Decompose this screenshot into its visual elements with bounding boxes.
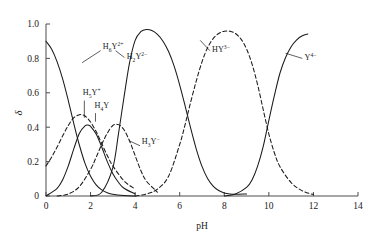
x-tick-label: 8 — [222, 201, 227, 211]
y-axis-title: δ — [12, 110, 24, 116]
curves-group — [46, 29, 313, 196]
series-label-HY3-: HY3− — [212, 44, 230, 54]
x-tick-label: 10 — [264, 201, 274, 211]
x-axis-tick-labels: 02468101214 — [44, 201, 363, 211]
x-tick-label: 14 — [353, 201, 363, 211]
leader-H3Y- — [129, 141, 140, 146]
series-label-H6Y2+: H6Y2+ — [103, 41, 124, 53]
y-tick-label: 0.2 — [27, 157, 39, 167]
series-label-H3Y-: H3Y− — [142, 136, 160, 148]
x-tick-label: 2 — [88, 201, 93, 211]
y-tick-label: 0.4 — [27, 123, 39, 133]
curve-Y4- — [224, 34, 308, 196]
y-tick-label: 0 — [34, 191, 39, 201]
series-label-H4Y: H4Y — [95, 101, 110, 112]
series-label-Y4-: Y4− — [305, 52, 317, 62]
y-tick-label: 1.0 — [27, 19, 39, 29]
leader-Y4- — [286, 53, 303, 58]
x-tick-label: 0 — [44, 201, 49, 211]
axes-group — [46, 24, 358, 196]
leader-H6Y2+ — [82, 51, 100, 63]
curve-H6Y2+ — [46, 41, 135, 196]
y-axis-ticks — [46, 24, 50, 196]
series-label-H5Y+: H5Y+ — [83, 87, 101, 99]
leader-lines-group — [82, 40, 302, 145]
y-axis-tick-labels: 00.20.40.60.81.0 — [27, 19, 39, 201]
leader-H2Y2- — [116, 51, 125, 58]
y-tick-label: 0.6 — [27, 88, 39, 98]
x-tick-label: 4 — [133, 201, 138, 211]
x-axis-title: pH — [196, 221, 208, 231]
y-tick-label: 0.8 — [27, 54, 39, 64]
curve-H4Y — [46, 125, 135, 196]
series-labels-group: H6Y2+H5Y+H4YH3Y−H2Y2−HY3−Y4− — [83, 41, 317, 148]
chart-figure: 02468101214 00.20.40.60.81.0 pH δ H6Y2+H… — [0, 0, 375, 237]
curve-H2Y2- — [91, 29, 247, 196]
leader-HY3- — [200, 40, 210, 50]
speciation-plot: 02468101214 00.20.40.60.81.0 pH δ H6Y2+H… — [0, 0, 375, 237]
x-tick-label: 6 — [177, 201, 182, 211]
curve-H3Y- — [57, 124, 157, 196]
x-tick-label: 12 — [309, 201, 319, 211]
